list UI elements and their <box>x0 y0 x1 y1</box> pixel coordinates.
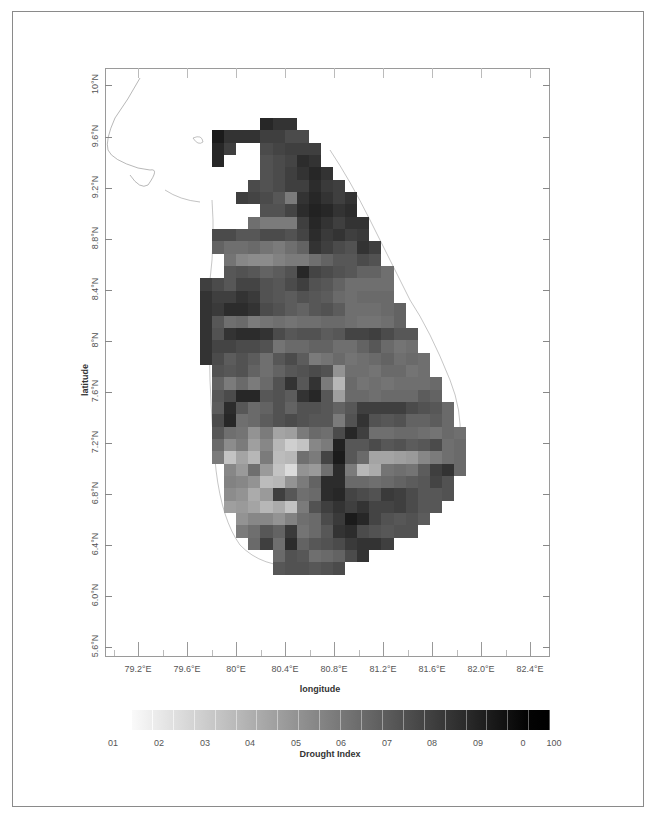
heatmap-cell <box>381 143 393 155</box>
heatmap-cell <box>357 291 369 303</box>
heatmap-cell <box>321 180 333 192</box>
heatmap-cell <box>273 328 285 340</box>
heatmap-cell <box>248 254 260 266</box>
heatmap-cell <box>273 180 285 192</box>
heatmap-cell <box>369 414 381 426</box>
heatmap-cell <box>297 377 309 389</box>
heatmap-cell <box>430 353 442 365</box>
heatmap-cell <box>273 414 285 426</box>
heatmap-cell <box>285 402 297 414</box>
heatmap-cell <box>345 427 357 439</box>
heatmap-cell <box>248 229 260 241</box>
x-tick-mark-top <box>481 68 482 78</box>
heatmap-cell <box>442 439 454 451</box>
heatmap-cell <box>333 217 345 229</box>
heatmap-cell <box>212 180 224 192</box>
heatmap-cell <box>236 241 248 253</box>
heatmap-cell <box>394 167 406 179</box>
heatmap-cell <box>345 217 357 229</box>
heatmap-cell <box>309 550 321 562</box>
colorbar-segment <box>404 710 425 730</box>
heatmap-cell <box>357 377 369 389</box>
y-tick-label: 7.6°N <box>90 366 100 416</box>
heatmap-cell <box>466 501 478 513</box>
heatmap-cell <box>260 118 272 130</box>
heatmap-cell <box>224 451 236 463</box>
heatmap-cell <box>285 562 297 574</box>
heatmap-cell <box>285 414 297 426</box>
heatmap-cell <box>236 501 248 513</box>
heatmap-cell <box>454 501 466 513</box>
heatmap-cell <box>200 328 212 340</box>
heatmap-cell <box>345 451 357 463</box>
heatmap-cell <box>309 204 321 216</box>
heatmap-cell <box>333 303 345 315</box>
heatmap-cell <box>297 241 309 253</box>
colorbar-segment <box>508 710 529 730</box>
heatmap-cell <box>369 464 381 476</box>
heatmap-cell <box>454 538 466 550</box>
heatmap-cell <box>236 204 248 216</box>
heatmap-cell <box>333 278 345 290</box>
heatmap-cell <box>454 365 466 377</box>
heatmap-cell <box>285 143 297 155</box>
heatmap-cell <box>333 562 345 574</box>
heatmap-cell <box>369 192 381 204</box>
x-tick-mark <box>383 642 384 656</box>
heatmap-cell <box>212 414 224 426</box>
heatmap-cell <box>442 414 454 426</box>
heatmap-cell <box>297 562 309 574</box>
heatmap-cell <box>236 476 248 488</box>
heatmap-cell <box>309 562 321 574</box>
heatmap-cell <box>297 476 309 488</box>
heatmap-cell <box>466 353 478 365</box>
heatmap-cell <box>224 241 236 253</box>
heatmap-cell <box>430 550 442 562</box>
colorbar-segment <box>487 710 508 730</box>
heatmap-cell <box>285 340 297 352</box>
heatmap-cell <box>418 340 430 352</box>
heatmap-cell <box>309 278 321 290</box>
heatmap-cell <box>381 278 393 290</box>
heatmap-cell <box>224 118 236 130</box>
colorbar-tick-label: 0 <box>508 738 538 748</box>
heatmap-cell <box>369 278 381 290</box>
heatmap-cell <box>466 241 478 253</box>
heatmap-cell <box>333 291 345 303</box>
heatmap-cell <box>285 278 297 290</box>
heatmap-cell <box>406 118 418 130</box>
heatmap-cell <box>369 476 381 488</box>
heatmap-cell <box>248 488 260 500</box>
x-tick-mark <box>236 642 237 656</box>
heatmap-cell <box>430 414 442 426</box>
heatmap-cell <box>224 291 236 303</box>
heatmap-cell <box>212 513 224 525</box>
heatmap-cell <box>200 229 212 241</box>
heatmap-cell <box>345 562 357 574</box>
heatmap-cell <box>333 328 345 340</box>
heatmap-cell <box>357 143 369 155</box>
heatmap-cell <box>321 130 333 142</box>
heatmap-cell <box>200 278 212 290</box>
heatmap-cell <box>381 118 393 130</box>
heatmap-cell <box>394 501 406 513</box>
heatmap-cell <box>430 562 442 574</box>
heatmap-cell <box>394 266 406 278</box>
heatmap-cell <box>200 316 212 328</box>
heatmap-cell <box>442 402 454 414</box>
heatmap-cell <box>454 278 466 290</box>
heatmap-cell <box>357 439 369 451</box>
heatmap-cell <box>248 414 260 426</box>
heatmap-cell <box>333 550 345 562</box>
heatmap-cell <box>333 192 345 204</box>
heatmap-cell <box>260 291 272 303</box>
heatmap-cell <box>309 501 321 513</box>
heatmap-cell <box>381 513 393 525</box>
heatmap-cell <box>297 118 309 130</box>
heatmap-cell <box>381 476 393 488</box>
heatmap-cell <box>466 427 478 439</box>
heatmap-cell <box>333 204 345 216</box>
heatmap-cell <box>454 229 466 241</box>
y-tick-label: 6.8°N <box>90 468 100 518</box>
heatmap-cell <box>430 204 442 216</box>
